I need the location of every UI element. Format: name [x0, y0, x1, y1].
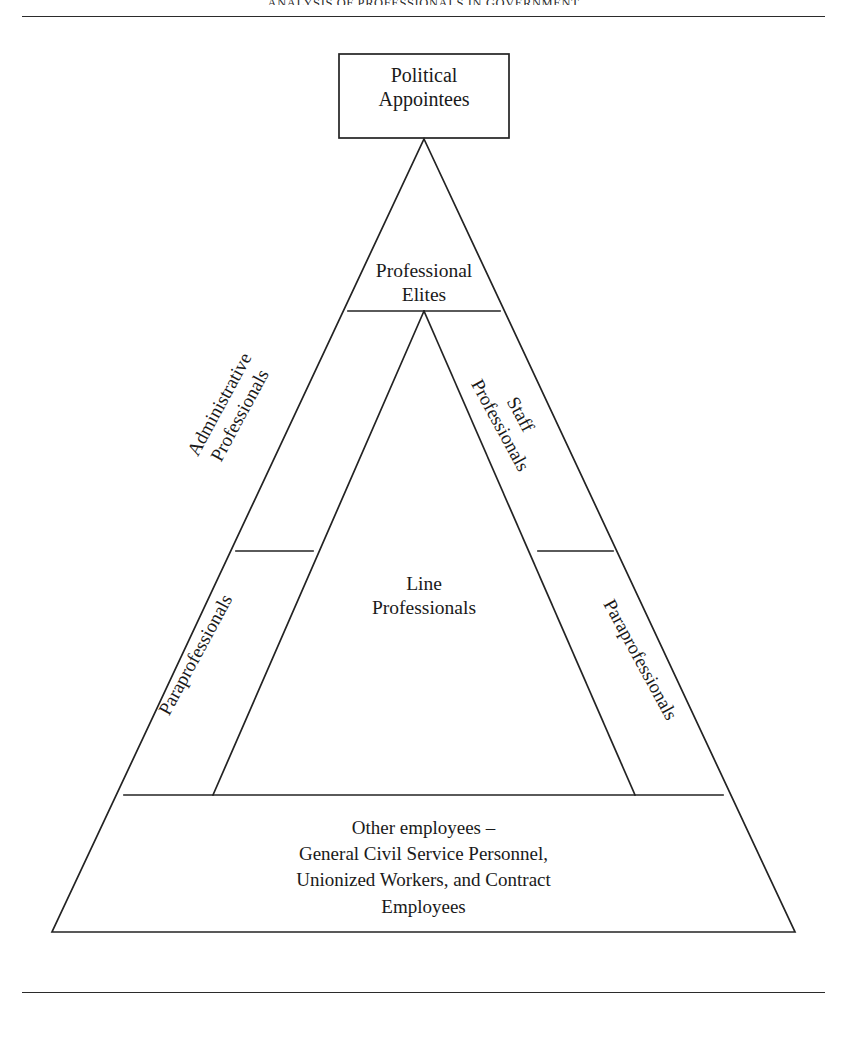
pyramid-diagram: Political Appointees Professional Elites…: [0, 0, 847, 975]
bottom-rule: [22, 992, 825, 993]
outer-triangle: [52, 139, 795, 932]
line-professionals-label: Line Professionals: [329, 572, 519, 620]
page: ANALYSIS OF PROFESSIONALS IN GOVERNMENT …: [0, 0, 847, 1037]
political-appointees-label: Political Appointees: [339, 63, 509, 112]
professional-elites-label: Professional Elites: [339, 259, 509, 307]
inner-triangle-right-edge: [424, 311, 635, 795]
other-employees-label: Other employees – General Civil Service …: [205, 815, 642, 920]
